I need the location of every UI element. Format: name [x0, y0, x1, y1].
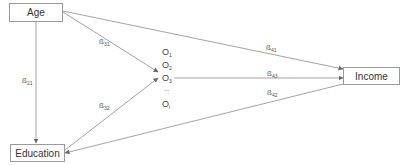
- mediator-oi: Oi: [162, 100, 170, 110]
- coef-b21-sub: 21: [27, 80, 33, 86]
- coef-b43-sub: 43: [272, 73, 278, 79]
- node-age: Age: [9, 3, 63, 22]
- coef-b21: ß21: [22, 77, 32, 86]
- mediator-o1-base: O: [162, 47, 169, 57]
- mediator-o3-base: O: [162, 73, 169, 83]
- node-income: Income: [343, 67, 400, 85]
- mediator-o2: O2: [162, 61, 172, 71]
- node-age-label: Age: [27, 7, 45, 18]
- coef-b32-sub: 32: [104, 105, 110, 111]
- coef-b41: ß41: [266, 44, 276, 53]
- coef-b31: ß31: [99, 38, 109, 47]
- arrow-education-to-o3: [65, 78, 158, 150]
- mediator-o2-sub: 2: [169, 65, 172, 71]
- coef-b42: ß42: [267, 89, 277, 98]
- coef-b42-sub: 42: [272, 92, 278, 98]
- mediator-o2-base: O: [162, 60, 169, 70]
- mediator-o1-sub: 1: [169, 52, 172, 58]
- mediator-o3: O3: [162, 74, 172, 84]
- mediator-ellipsis: ...: [163, 85, 170, 93]
- mediator-oi-sub: i: [169, 104, 170, 110]
- coef-b43: ß43: [267, 70, 277, 79]
- coef-b31-sub: 31: [104, 41, 110, 47]
- mediator-o1: O1: [162, 48, 172, 58]
- coef-b32: ß32: [99, 102, 109, 111]
- coef-b41-sub: 41: [271, 47, 277, 53]
- node-education-label: Education: [15, 148, 59, 159]
- arrow-income-to-education: [65, 84, 343, 153]
- mediator-oi-base: O: [162, 99, 169, 109]
- node-income-label: Income: [355, 71, 388, 82]
- node-education: Education: [10, 144, 65, 162]
